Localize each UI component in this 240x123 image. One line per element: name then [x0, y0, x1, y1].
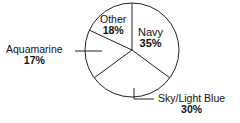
label-sky-light-blue: Sky/Light Blue 30%: [158, 93, 225, 115]
label-navy: Navy 35%: [138, 27, 163, 49]
label-other: Other 18%: [100, 14, 126, 36]
label-navy-value: 35%: [138, 38, 163, 49]
label-sky-value: 30%: [158, 104, 225, 115]
label-aquamarine: Aquamarine 17%: [6, 44, 63, 66]
label-other-value: 18%: [100, 25, 126, 36]
label-aquamarine-value: 17%: [6, 55, 63, 66]
